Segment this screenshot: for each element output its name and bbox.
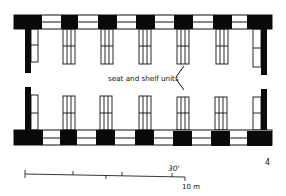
wall-end-right	[247, 131, 272, 146]
wall-pier	[136, 15, 155, 29]
arrow-down	[176, 79, 184, 90]
scale-label-metric: 10 m	[182, 183, 200, 191]
wall-pier	[213, 15, 232, 29]
seat-shelf-unit	[63, 96, 75, 130]
wall-pier	[173, 131, 192, 146]
top-seat-units	[31, 29, 261, 67]
scale-label-imperial: 30'	[168, 164, 180, 173]
plan-diagram: seat and shelf units 30' 10	[0, 0, 286, 196]
wall-end-right	[247, 15, 272, 29]
annotation-label: seat and shelf units	[108, 74, 179, 83]
end-post-right	[261, 29, 267, 75]
end-post-left	[25, 87, 31, 131]
seat-shelf-unit	[139, 29, 151, 64]
wall-pier	[96, 130, 115, 145]
wall-end-left	[14, 130, 43, 145]
wall-pier	[61, 15, 78, 29]
seat-shelf-unit	[215, 97, 227, 130]
bottom-seat-units	[31, 95, 261, 130]
wall-pier	[174, 15, 193, 29]
wall-pier	[98, 15, 117, 29]
scale-bar	[25, 170, 185, 181]
annotation: seat and shelf units	[108, 66, 184, 90]
seat-shelf-unit	[101, 29, 113, 64]
seat-shelf-unit	[63, 29, 75, 64]
figure-number: 4	[265, 158, 270, 167]
seat-shelf-unit	[177, 29, 189, 64]
seat-shelf-unit	[177, 97, 189, 130]
seat-shelf-unit	[100, 96, 112, 130]
wall-pier	[211, 131, 230, 146]
end-post-left	[25, 29, 31, 73]
seat-shelf-unit	[253, 97, 261, 130]
seat-shelf-unit	[253, 29, 261, 67]
wall-pier	[135, 130, 154, 145]
seat-shelf-unit	[139, 96, 151, 130]
end-post-right	[261, 89, 267, 132]
seat-shelf-unit	[31, 29, 38, 62]
wall-pier	[60, 130, 77, 145]
arrow-up	[176, 66, 184, 77]
wall-end-left	[14, 15, 42, 29]
seat-shelf-unit	[216, 29, 228, 64]
seat-shelf-unit	[31, 95, 38, 130]
